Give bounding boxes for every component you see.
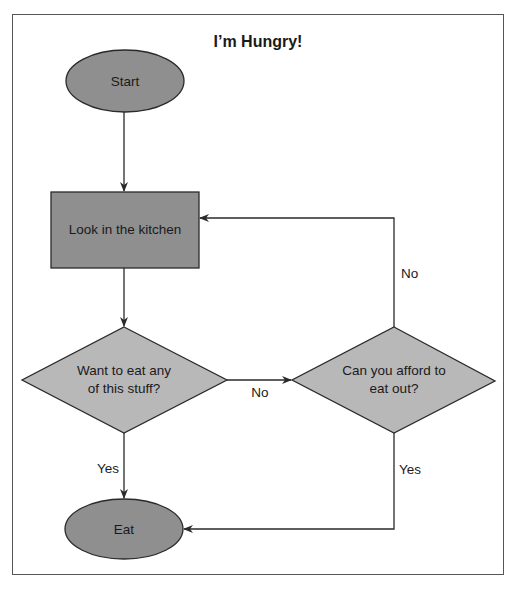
- node-want: Want to eat any of this stuff?: [22, 327, 227, 433]
- edge-afford-to-eat: [184, 433, 394, 529]
- eat-label: Eat: [114, 522, 135, 537]
- want-label-line-2: of this stuff?: [88, 381, 161, 396]
- edge-label-want-yes: Yes: [97, 461, 119, 476]
- edges: [124, 112, 394, 529]
- edge-label-afford-no: No: [401, 266, 418, 281]
- edge-label-afford-yes: Yes: [399, 462, 421, 477]
- flowchart: I’m Hungry! No No Yes Yes Start Look in …: [0, 0, 516, 590]
- want-diamond: [22, 327, 227, 433]
- want-label-line-1: Want to eat any: [77, 363, 171, 378]
- afford-diamond: [292, 327, 495, 433]
- node-kitchen: Look in the kitchen: [51, 192, 199, 268]
- start-label: Start: [111, 74, 140, 89]
- node-eat: Eat: [65, 499, 183, 559]
- afford-label-line-2: eat out?: [370, 381, 419, 396]
- node-start: Start: [66, 50, 184, 112]
- node-afford: Can you afford to eat out?: [292, 327, 495, 433]
- afford-label-line-1: Can you afford to: [342, 363, 445, 378]
- edge-afford-to-kitchen: [200, 218, 394, 327]
- edge-label-want-no: No: [251, 385, 268, 400]
- kitchen-label: Look in the kitchen: [69, 222, 182, 237]
- diagram-title: I’m Hungry!: [214, 33, 303, 50]
